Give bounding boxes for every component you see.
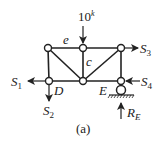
force-label-s3: S3 [140, 41, 152, 58]
load-label: 10k [78, 9, 95, 24]
force-label-s2: S2 [43, 103, 54, 120]
roller-support [117, 86, 126, 95]
force-label-s1: S1 [11, 74, 22, 91]
truss-diagram: 10k e c D E S1 S2 S3 S4 RE (a) [0, 0, 159, 147]
force-label-s4: S4 [141, 74, 153, 91]
joint-bottom-middle [80, 78, 87, 85]
reaction-label-re: RE [126, 105, 141, 122]
joint-d [46, 78, 53, 85]
joint-top-right [118, 45, 125, 52]
node-label-e: E [98, 83, 107, 98]
joint-top-middle [80, 45, 87, 52]
member-left-vertical [48, 48, 49, 81]
joint-e [118, 78, 125, 85]
figure-caption: (a) [76, 121, 90, 136]
truss-joints [45, 45, 125, 85]
member-left-diagonal [48, 48, 83, 81]
member-label-c: c [86, 54, 92, 69]
joint-top-left [45, 45, 52, 52]
member-label-e: e [63, 32, 69, 47]
truss-members [48, 48, 121, 81]
node-label-d: D [53, 83, 64, 98]
